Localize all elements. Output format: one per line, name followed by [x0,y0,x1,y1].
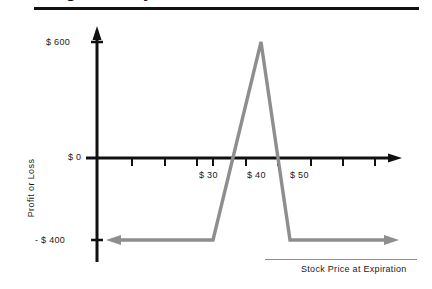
y-tick-label-0: $ 0 [68,152,81,162]
y-axis [91,26,103,262]
x-axis-title-divider [265,259,417,260]
x-tick-label-30: $ 30 [199,170,218,180]
x-axis [86,154,402,167]
y-axis-title: Profit or Loss [26,148,36,228]
y-tick-label-600: $ 600 [46,37,70,47]
arrow-left-icon [106,235,121,245]
x-tick-label-40: $ 40 [247,170,266,180]
arrow-right-icon [384,235,399,245]
chart-figure: Long Butterfly [0,0,432,289]
y-tick-label-minus-400: - $ 400 [35,235,65,245]
x-axis-title: Stock Price at Expiration [301,264,407,274]
payoff-line [106,42,399,245]
x-tick-label-50: $ 50 [290,170,309,180]
